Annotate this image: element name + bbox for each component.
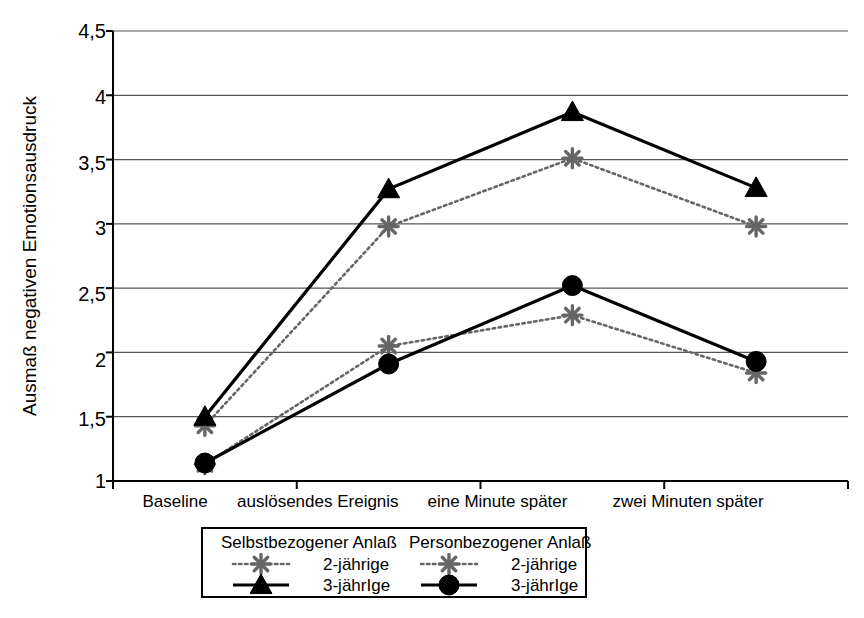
x-axis-ticks (113, 481, 848, 489)
legend-label-selbst-3: 3-jährIge (323, 576, 390, 596)
plot-area (0, 0, 864, 618)
legend-label-selbst-2: 2-jährige (323, 555, 389, 575)
x-tick-label-zwei-minuten-spaeter: zwei Minuten später (608, 492, 768, 512)
series-0 (195, 149, 765, 435)
legend: Selbstbezogener Anlaß Personbezogener An… (201, 527, 587, 598)
legend-label-person-2: 2-jährige (511, 555, 577, 575)
gridlines (113, 31, 848, 481)
legend-label-person-3: 3-jährIge (511, 576, 578, 596)
x-tick-label-baseline: Baseline (113, 492, 237, 512)
series-3 (195, 276, 766, 473)
x-tick-label-ausloesendes-ereignis: auslösendes Ereignis (237, 492, 364, 512)
series-layer (194, 101, 767, 474)
series-1 (194, 101, 767, 425)
x-tick-label-eine-minute-spaeter: eine Minute später (420, 492, 575, 512)
chart-container: Ausmaß negativen Emotionsausdruck 4,5 4 … (0, 0, 864, 618)
